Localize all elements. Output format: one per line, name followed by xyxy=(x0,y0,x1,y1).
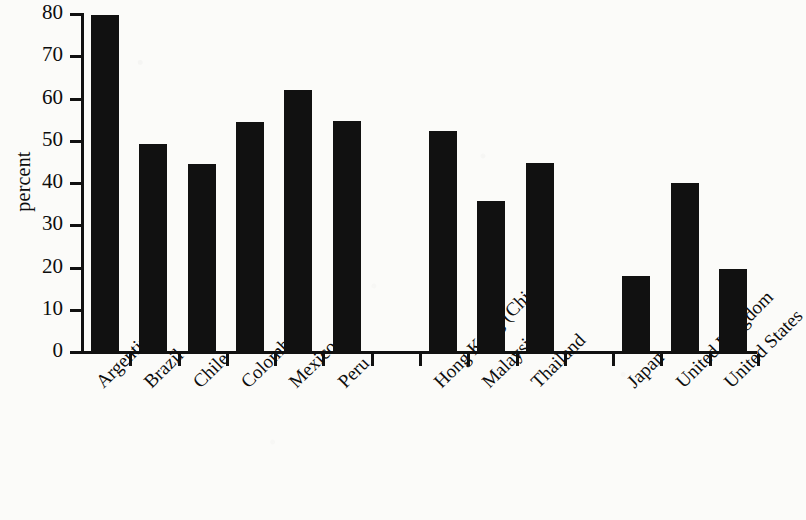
y-axis-tick xyxy=(70,55,82,58)
bar xyxy=(429,131,457,351)
y-axis-tick-label: 0 xyxy=(3,340,63,361)
bar xyxy=(139,144,167,351)
bar xyxy=(719,269,747,351)
y-axis-tick xyxy=(70,351,82,354)
bar xyxy=(284,90,312,351)
x-axis-tick xyxy=(371,354,374,366)
bar xyxy=(236,122,264,351)
bar xyxy=(188,164,216,351)
x-axis-tick-label: Peru xyxy=(334,353,372,391)
bar xyxy=(91,15,119,351)
bar xyxy=(622,276,650,351)
y-axis-tick-label: 10 xyxy=(3,298,63,319)
y-axis-tick-label: 70 xyxy=(3,44,63,65)
y-axis-tick xyxy=(70,140,82,143)
y-axis-tick-label: 40 xyxy=(3,171,63,192)
y-axis-tick xyxy=(70,309,82,312)
y-axis-tick-label: 20 xyxy=(3,256,63,277)
x-axis-tick xyxy=(419,354,422,366)
y-axis-tick xyxy=(70,98,82,101)
y-axis-tick-label: 80 xyxy=(3,2,63,23)
y-axis-tick xyxy=(70,224,82,227)
y-axis-tick-label: 60 xyxy=(3,87,63,108)
x-axis-tick-label: Chile xyxy=(189,349,232,392)
bar xyxy=(333,121,361,351)
bar xyxy=(526,163,554,351)
y-axis-tick xyxy=(70,182,82,185)
y-axis-tick-label: 50 xyxy=(3,129,63,150)
bar xyxy=(477,201,505,351)
y-axis-tick xyxy=(70,267,82,270)
y-axis-tick xyxy=(70,13,82,16)
x-axis-tick xyxy=(612,354,615,366)
bar xyxy=(671,183,699,351)
y-axis-tick-label: 30 xyxy=(3,213,63,234)
